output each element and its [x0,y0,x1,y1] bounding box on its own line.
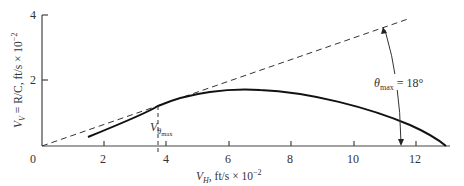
climb-hodograph-chart: 0 2 4 6 8 10 12 2 4 VH, ft/s × 10−2 VV =… [0,0,464,186]
tangent-line [42,19,408,146]
x-tick-label-4: 4 [163,152,169,166]
arc-arrowhead-bottom [398,139,404,146]
y-tick-label-2: 2 [30,73,36,87]
origin-label: 0 [30,152,36,166]
x-tick-label-2: 2 [100,152,106,166]
x-tick-label-8: 8 [287,152,293,166]
arc-arrowhead-top [381,27,387,34]
vtheta-max-label: Vθmax [150,120,173,137]
y-tick-label-4: 4 [30,8,36,22]
y-axis-label: VV = R/C, ft/s × 10−2 [10,33,27,128]
x-tick-label-12: 12 [409,152,421,166]
hodograph-curve [88,90,446,146]
x-tick-label-10: 10 [347,152,359,166]
x-tick-label-6: 6 [225,152,231,166]
x-axis-label: VH, ft/s × 10−2 [196,168,262,185]
